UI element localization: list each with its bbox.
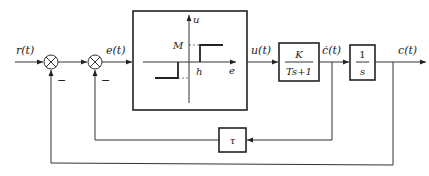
tau-label: τ [230,135,236,146]
plant-denominator: Ts+1 [286,66,312,77]
relay-output-label: u(t) [251,44,271,57]
input-label: r(t) [16,44,34,57]
integrator-numerator: 1 [359,49,365,60]
minus-sign-2: − [101,74,110,87]
summing-junction-1 [44,55,58,69]
error-label: e(t) [106,44,126,57]
threshold-h-label: h [196,66,202,77]
velocity-label: ċ(t) [322,44,341,57]
u-axis-label: u [193,14,199,25]
e-axis-label: e [229,65,235,76]
output-label: c(t) [398,44,417,57]
minus-sign-1: − [57,74,66,87]
integrator-denominator: s [360,66,365,77]
relay-block [133,11,247,110]
level-M-label: M [172,40,184,51]
block-diagram: r(t) − − e(t) u e M h u(t) K Ts+1 [0,0,429,176]
plant-numerator: K [294,49,303,60]
summing-junction-2 [88,55,102,69]
